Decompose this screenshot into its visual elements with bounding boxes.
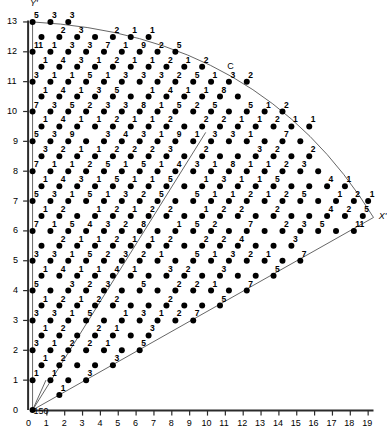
y-tick-label: 1: [13, 376, 18, 385]
data-point-label: 1: [105, 190, 110, 199]
data-point: [199, 123, 205, 129]
data-point-label: 1: [79, 265, 84, 274]
data-point: [74, 362, 80, 368]
data-point: [217, 183, 223, 189]
data-point: [235, 94, 241, 100]
data-point: [271, 183, 277, 189]
data-point-label: 2: [114, 56, 119, 65]
data-point-label: 2: [275, 115, 280, 124]
data-point-label: 3: [123, 250, 128, 259]
data-point-label: 2: [284, 220, 289, 229]
data-point-label: 7: [105, 41, 110, 50]
data-point: [110, 332, 116, 338]
data-point-label: 1: [70, 71, 75, 80]
data-point-label: 3: [88, 369, 93, 378]
x-tick-label: 17: [326, 419, 336, 428]
data-point: [110, 153, 116, 159]
x-tick-label: 7: [151, 419, 156, 428]
data-point-label: 3: [168, 265, 173, 274]
data-point-label: 2: [123, 220, 128, 229]
data-point-label: 2: [248, 250, 253, 259]
data-point-label: 5: [177, 41, 182, 50]
x-tick-label: 1: [44, 419, 49, 428]
data-point-label: 1: [213, 160, 218, 169]
data-point-label: 1: [97, 235, 102, 244]
data-point-label: 4: [114, 265, 119, 274]
data-point: [128, 123, 134, 129]
data-point-label: 3: [52, 101, 57, 110]
data-point-label: 4: [61, 56, 66, 65]
data-point-label: 3: [70, 41, 75, 50]
data-point: [74, 332, 80, 338]
data-point: [155, 228, 161, 234]
data-point-label: 1: [213, 190, 218, 199]
x-tick-label: 18: [344, 419, 354, 428]
data-point: [208, 138, 214, 144]
data-point-label: 5: [159, 190, 164, 199]
data-point-label: 2: [168, 56, 173, 65]
data-point-label: 2: [61, 235, 66, 244]
data-point: [172, 168, 178, 174]
data-point-label: 3: [141, 71, 146, 80]
data-point-label: 2: [105, 250, 110, 259]
data-point: [235, 123, 241, 129]
data-point: [74, 153, 80, 159]
x-tick-label: 4: [97, 419, 102, 428]
data-point: [244, 168, 250, 174]
data-point: [172, 198, 178, 204]
data-point-label: 1: [159, 130, 164, 139]
data-point: [199, 183, 205, 189]
data-point: [146, 332, 152, 338]
y-tick-label: 5: [13, 256, 18, 265]
data-point-label: 4: [329, 205, 334, 214]
data-point: [56, 332, 62, 338]
data-point: [74, 183, 80, 189]
data-point-label: 1: [204, 175, 209, 184]
data-point: [119, 138, 125, 144]
data-point: [217, 123, 223, 129]
data-point-label: 2: [61, 324, 66, 333]
data-point-label: 3: [34, 309, 39, 318]
data-point-label: 7: [284, 130, 289, 139]
y-tick-label: 3: [13, 316, 18, 325]
data-point-label: 5: [70, 101, 75, 110]
origin-annotation: 150: [33, 407, 48, 416]
y-tick-label: 10: [7, 107, 17, 116]
data-point-label: 8: [141, 101, 146, 110]
data-point-label: 1: [43, 295, 48, 304]
data-point: [181, 183, 187, 189]
data-point: [38, 34, 44, 40]
data-point: [155, 288, 161, 294]
data-point: [101, 138, 107, 144]
data-point-label: 1: [266, 101, 271, 110]
y-tick-label: 4: [13, 286, 18, 295]
data-point-label: 5: [213, 101, 218, 110]
data-point-label: 2: [248, 71, 253, 80]
data-point-label: 3: [159, 71, 164, 80]
data-point: [38, 332, 44, 338]
data-point-label: 3: [97, 86, 102, 95]
data-point: [30, 347, 36, 353]
data-point-label: 1: [248, 160, 253, 169]
data-point-label: 5: [177, 101, 182, 110]
data-point-label: 4: [61, 86, 66, 95]
data-point: [38, 153, 44, 159]
data-point-label: 5: [88, 71, 93, 80]
data-point-label: 1: [159, 101, 164, 110]
data-point: [279, 168, 285, 174]
data-point-label: 2: [213, 220, 218, 229]
data-point: [190, 138, 196, 144]
data-point-label: 2: [177, 280, 182, 289]
data-point-label: 2: [114, 26, 119, 35]
data-point: [297, 168, 303, 174]
data-point-label: 3: [123, 101, 128, 110]
data-point-label: 1: [114, 324, 119, 333]
data-point-label: 3: [34, 71, 39, 80]
data-point: [65, 347, 71, 353]
data-point-label: 3: [105, 220, 110, 229]
data-point: [56, 362, 62, 368]
data-point: [199, 303, 205, 309]
data-point: [190, 168, 196, 174]
data-point-label: 1: [266, 190, 271, 199]
